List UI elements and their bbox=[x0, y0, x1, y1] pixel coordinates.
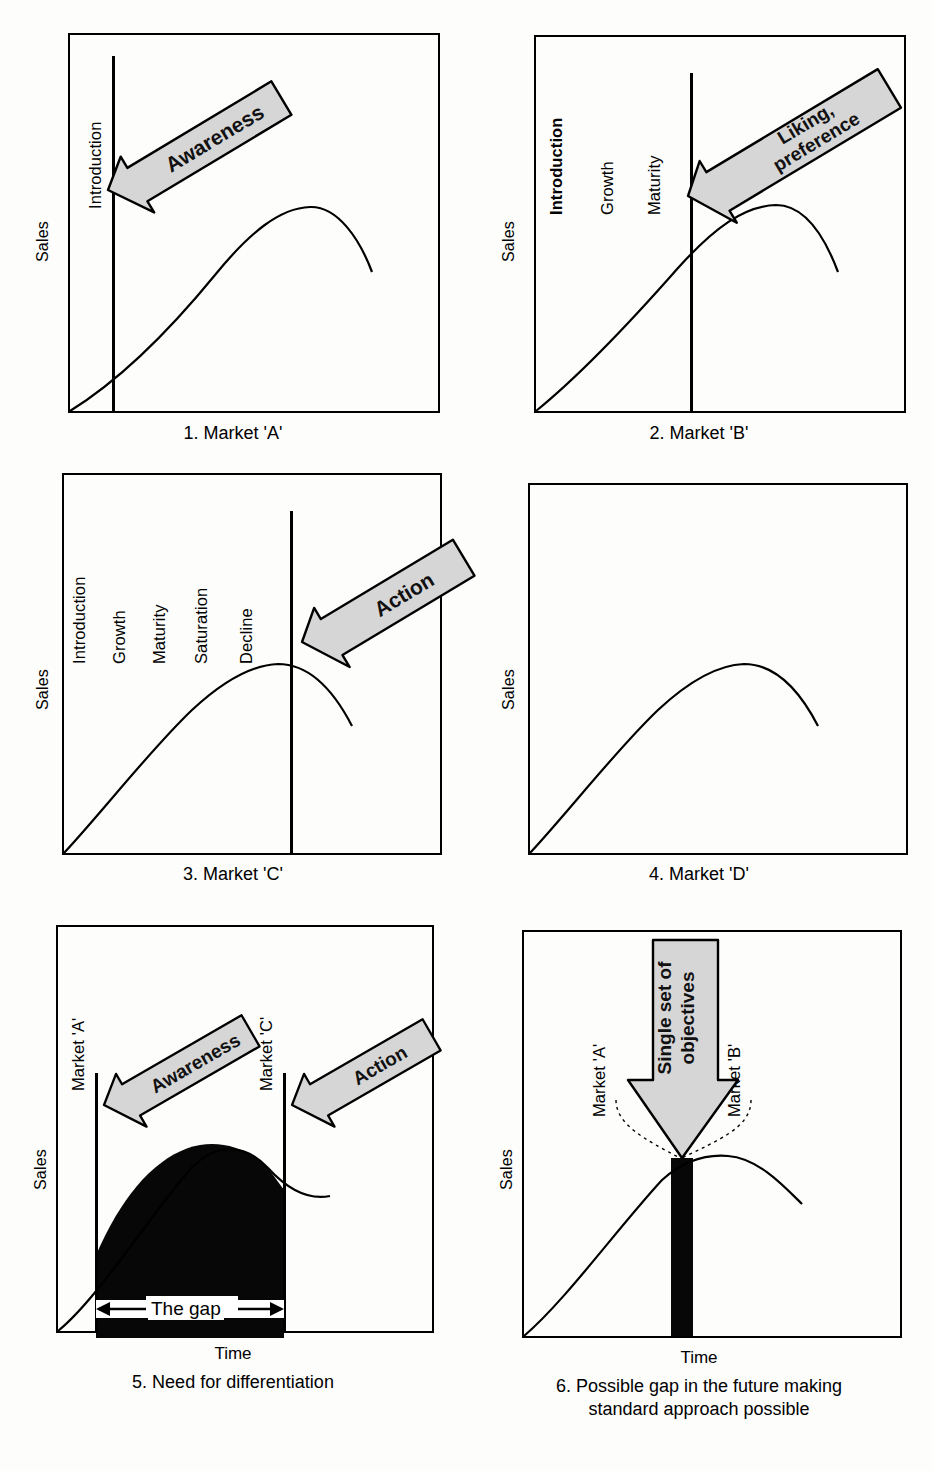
panel-5-caption: 5. Need for differentiation bbox=[0, 1372, 466, 1394]
panel-1: Sales Introduction Awareness 1. Market '… bbox=[0, 0, 466, 460]
panel-5-gap-label: The gap bbox=[148, 1298, 224, 1320]
panel-4: Sales 4. Market 'D' bbox=[466, 460, 932, 910]
panel-4-curve bbox=[466, 460, 932, 910]
panel-6-arrow-label-line1: Single set of bbox=[654, 961, 675, 1075]
panel-6-x-axis-label: Time bbox=[466, 1348, 932, 1368]
panel-5-x-axis-label: Time bbox=[0, 1344, 466, 1364]
panel-6-caption-line1: 6. Possible gap in the future making bbox=[466, 1376, 932, 1398]
figure-grid: Sales Introduction Awareness 1. Market '… bbox=[0, 0, 932, 1471]
panel-6-caption-line2: standard approach possible bbox=[466, 1399, 932, 1421]
panel-4-caption: 4. Market 'D' bbox=[466, 864, 932, 886]
panel-1-caption: 1. Market 'A' bbox=[0, 423, 466, 445]
panel-3-arrow-action: Action bbox=[0, 460, 466, 910]
panel-6-arrow-label-line2: objectives bbox=[677, 972, 698, 1065]
panel-1-arrow-awareness: Awareness bbox=[0, 0, 466, 460]
panel-3-caption: 3. Market 'C' bbox=[0, 864, 466, 886]
panel-2-arrow-liking-preference: Liking, preference bbox=[466, 0, 932, 460]
panel-5: Sales Market 'A' Market 'C' Awarene bbox=[0, 900, 466, 1471]
panel-6: Sales Market 'A' Market 'B' bbox=[466, 900, 932, 1471]
panel-3: Sales Introduction Growth Maturity Satur… bbox=[0, 460, 466, 910]
panel-2: Sales Introduction Growth Maturity Likin… bbox=[466, 0, 932, 460]
panel-2-caption: 2. Market 'B' bbox=[466, 423, 932, 445]
